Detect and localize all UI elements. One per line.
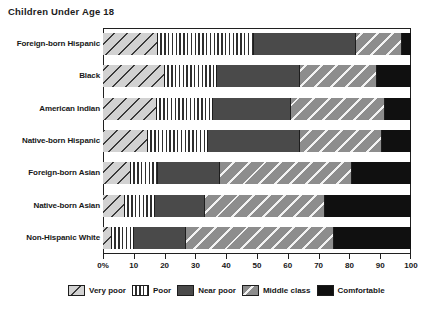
x-axis-tick-label: 30: [191, 261, 200, 270]
x-axis-tick-labels: 0%102030405060708090100: [0, 261, 424, 275]
legend-label: Very poor: [89, 286, 126, 295]
bar-segment-comfortable: [352, 162, 411, 184]
y-axis-category-labels: Foreign-born HispanicBlackAmerican India…: [0, 28, 100, 254]
bar-segment-comfortable: [402, 33, 411, 55]
bar-segment-comfortable: [385, 98, 411, 120]
x-axis-tick: [165, 254, 166, 259]
bar-segment-middle-class: [300, 65, 377, 87]
legend-swatch-near-poor: [177, 285, 194, 296]
bar-segment-very-poor: [103, 162, 131, 184]
x-axis-tick: [319, 254, 320, 259]
bar-segment-near-poor: [213, 98, 291, 120]
x-axis-tick-label: 20: [160, 261, 169, 270]
x-axis-tick: [226, 254, 227, 259]
chart-legend: Very poorPoorNear poorMiddle classComfor…: [68, 282, 416, 298]
x-axis-tick-label: 80: [345, 261, 354, 270]
bar-segment-very-poor: [103, 65, 165, 87]
x-axis-tick-label: 40: [222, 261, 231, 270]
bar-segment-poor: [131, 162, 159, 184]
x-axis-tick: [380, 254, 381, 259]
x-axis-tick: [410, 254, 411, 259]
legend-swatch-very-poor: [68, 285, 85, 296]
bar-segment-near-poor: [158, 162, 220, 184]
bar-segment-near-poor: [155, 195, 204, 217]
category-label: Foreign-born Hispanic: [0, 39, 100, 48]
bar-segment-near-poor: [217, 65, 300, 87]
bar-row: [103, 130, 411, 152]
legend-swatch-comfortable: [317, 285, 334, 296]
bar-segment-very-poor: [103, 130, 148, 152]
x-axis-tick: [195, 254, 196, 259]
legend-item: Near poor: [177, 285, 236, 296]
bar-segment-near-poor: [254, 33, 356, 55]
x-axis-tick-label: 0%: [97, 261, 109, 270]
legend-swatch-middle-class: [242, 285, 259, 296]
x-axis: [103, 254, 411, 261]
x-axis-tick-label: 70: [314, 261, 323, 270]
legend-label: Near poor: [198, 286, 236, 295]
bar-row: [103, 98, 411, 120]
legend-label: Poor: [153, 286, 171, 295]
bar-row: [103, 162, 411, 184]
x-axis-tick-label: 60: [283, 261, 292, 270]
x-axis-tick: [349, 254, 350, 259]
bar-segment-very-poor: [103, 227, 112, 249]
bar-segment-near-poor: [208, 130, 300, 152]
bar-segment-poor: [157, 98, 214, 120]
bar-row: [103, 65, 411, 87]
x-axis-tick-label: 50: [253, 261, 262, 270]
x-axis-tick-label: 10: [129, 261, 138, 270]
category-label: American Indian: [0, 104, 100, 113]
bar-row: [103, 227, 411, 249]
stacked-bars-layer: [103, 28, 411, 254]
bar-segment-poor: [125, 195, 156, 217]
bar-segment-very-poor: [103, 33, 158, 55]
legend-label: Comfortable: [338, 286, 385, 295]
bar-segment-middle-class: [300, 130, 382, 152]
bar-segment-middle-class: [205, 195, 325, 217]
category-label: Non-Hispanic White: [0, 233, 100, 242]
bar-segment-poor: [158, 33, 253, 55]
x-axis-tick-label: 100: [404, 261, 417, 270]
x-axis-tick: [288, 254, 289, 259]
legend-swatch-poor: [132, 285, 149, 296]
bar-segment-comfortable: [377, 65, 411, 87]
bar-segment-middle-class: [220, 162, 352, 184]
bar-segment-poor: [112, 227, 134, 249]
bar-segment-very-poor: [103, 195, 125, 217]
page-title: Children Under Age 18: [8, 6, 114, 17]
legend-item: Middle class: [242, 285, 311, 296]
bar-segment-comfortable: [382, 130, 411, 152]
legend-item: Very poor: [68, 285, 126, 296]
x-axis-tick-label: 90: [376, 261, 385, 270]
category-label: Foreign-born Asian: [0, 168, 100, 177]
legend-label: Middle class: [263, 286, 311, 295]
bar-segment-poor: [165, 65, 217, 87]
category-label: Native-born Hispanic: [0, 136, 100, 145]
bar-segment-near-poor: [134, 227, 186, 249]
bar-segment-comfortable: [325, 195, 411, 217]
legend-item: Comfortable: [317, 285, 385, 296]
bar-segment-middle-class: [291, 98, 384, 120]
x-axis-tick: [134, 254, 135, 259]
bar-segment-very-poor: [103, 98, 157, 120]
x-axis-tick: [257, 254, 258, 259]
legend-item: Poor: [132, 285, 171, 296]
x-axis-tick: [103, 254, 104, 259]
bar-row: [103, 33, 411, 55]
category-label: Black: [0, 71, 100, 80]
bar-row: [103, 195, 411, 217]
bar-segment-poor: [148, 130, 208, 152]
category-label: Native-born Asian: [0, 201, 100, 210]
bar-segment-comfortable: [334, 227, 411, 249]
bar-segment-middle-class: [356, 33, 402, 55]
bar-segment-middle-class: [186, 227, 334, 249]
